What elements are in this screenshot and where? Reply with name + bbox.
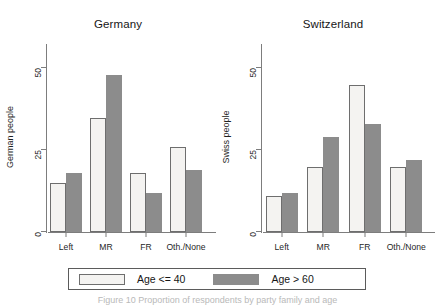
chart-panel-germany: Germany German people 0 25 50 Left [0, 12, 218, 262]
y-tick-label-50: 50 [33, 68, 43, 77]
y-axis-title-germany: German people [5, 106, 15, 168]
x-tick [406, 232, 407, 237]
figure-container: Germany German people 0 25 50 Left [0, 0, 435, 307]
figure-caption: Figure 10 Proportion of respondents by p… [0, 295, 435, 305]
y-tick-label-25: 25 [33, 150, 43, 159]
bar-dark[interactable] [365, 124, 381, 232]
y-axis-title-switzerland: Swiss people [221, 110, 231, 163]
x-tick [186, 232, 187, 237]
y-tick-label-0: 0 [248, 232, 258, 237]
bar-dark[interactable] [66, 173, 82, 232]
y-tick-label-50: 50 [248, 68, 258, 77]
x-axis-label: Left [59, 242, 73, 252]
bar-group: Left [50, 52, 82, 232]
bar-light[interactable] [307, 167, 323, 233]
bar-group: Oth./None [170, 52, 202, 232]
bar-light[interactable] [50, 183, 66, 232]
legend-entry-age-gt-60: Age > 60 [213, 269, 313, 289]
bar-dark[interactable] [323, 137, 339, 232]
x-axis-label: Oth./None [387, 242, 426, 252]
bar-group: MR [307, 52, 339, 232]
x-axis-label: MR [99, 242, 112, 252]
bar-dark[interactable] [186, 170, 202, 232]
bar-light[interactable] [130, 173, 146, 232]
chart-panel-switzerland: Switzerland Swiss people 0 25 50 Left [217, 12, 435, 262]
x-tick [146, 232, 147, 237]
bar-groups-switzerland: Left MR FR Oth./N [261, 52, 427, 232]
bar-groups-germany: Left MR FR Oth./N [46, 52, 206, 232]
y-tick-label-0: 0 [33, 232, 43, 237]
panel-title-switzerland: Switzerland [217, 18, 435, 30]
x-axis-label: Oth./None [166, 242, 205, 252]
bar-group: Oth./None [390, 52, 422, 232]
legend-label-age-gt-60: Age > 60 [271, 273, 313, 285]
x-axis-label: Left [275, 242, 289, 252]
bar-light[interactable] [266, 196, 282, 232]
x-axis-label: MR [317, 242, 330, 252]
plot-area-switzerland: 0 25 50 Left MR [261, 52, 427, 232]
bar-dark[interactable] [282, 193, 298, 232]
legend-swatch-light [79, 274, 125, 285]
bar-light[interactable] [390, 167, 406, 233]
panel-title-germany: Germany [0, 18, 218, 30]
x-tick [281, 232, 282, 237]
bar-light[interactable] [90, 118, 106, 233]
bar-group: FR [349, 52, 381, 232]
bar-group: FR [130, 52, 162, 232]
bar-light[interactable] [170, 147, 186, 232]
legend-entry-age-lte-40: Age <= 40 [79, 269, 185, 289]
x-tick [323, 232, 324, 237]
x-tick [66, 232, 67, 237]
y-tick-label-25: 25 [248, 150, 258, 159]
x-axis-label: FR [359, 242, 370, 252]
bar-group: MR [90, 52, 122, 232]
bar-dark[interactable] [146, 193, 162, 232]
plot-area-germany: 0 25 50 Left MR [46, 52, 206, 232]
bar-dark[interactable] [106, 75, 122, 232]
legend-swatch-dark [213, 274, 259, 285]
x-axis-label: FR [140, 242, 151, 252]
x-tick [364, 232, 365, 237]
bar-light[interactable] [349, 85, 365, 232]
legend-label-age-lte-40: Age <= 40 [137, 273, 185, 285]
chart-legend: Age <= 40 Age > 60 [68, 268, 366, 290]
x-tick [106, 232, 107, 237]
bar-dark[interactable] [406, 160, 422, 232]
bar-group: Left [266, 52, 298, 232]
x-axis-line [48, 232, 216, 233]
x-axis-line [263, 232, 435, 233]
